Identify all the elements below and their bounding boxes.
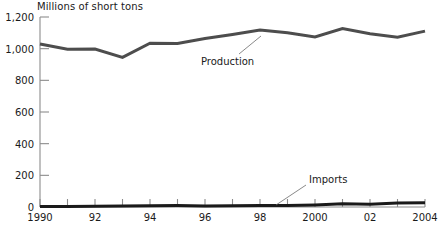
x-axis-tick-label: 96 (199, 212, 212, 223)
leader-line-imports (276, 185, 306, 205)
x-axis-tick-label: 98 (254, 212, 267, 223)
series-label-production: Production (201, 56, 254, 67)
x-axis-tick-label: 2000 (302, 212, 327, 223)
x-axis-tick-label: 02 (364, 212, 377, 223)
x-axis-tick-label: 2004 (412, 212, 437, 223)
leader-line-production (239, 36, 261, 54)
series-line-production (40, 29, 425, 58)
x-axis-tick-label: 94 (144, 212, 157, 223)
x-axis-tick-label: 1990 (27, 212, 52, 223)
x-axis-tick-label: 92 (89, 212, 102, 223)
series-label-imports: Imports (309, 174, 347, 185)
